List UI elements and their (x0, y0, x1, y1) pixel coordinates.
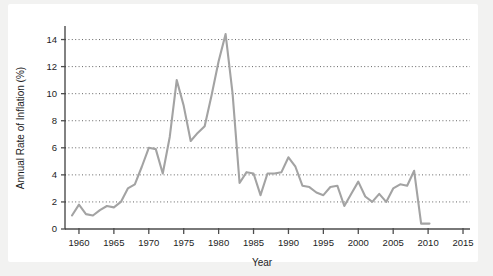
x-tick-label: 1995 (313, 237, 334, 248)
x-tick-label: 2010 (418, 237, 439, 248)
x-tick-label: 1985 (243, 237, 264, 248)
y-tick-label: 6 (52, 142, 57, 153)
inflation-line-chart: 02468101214 1960196519701975198019851990… (0, 0, 493, 276)
y-tick-label: 4 (52, 169, 57, 180)
y-tick-label: 10 (46, 88, 57, 99)
gridlines (65, 40, 470, 202)
x-tick-label: 1990 (278, 237, 299, 248)
y-axis-title: Annual Rate of Inflation (%) (15, 67, 26, 189)
y-axis-ticks: 02468101214 (46, 34, 66, 234)
x-tick-label: 2000 (348, 237, 369, 248)
x-tick-label: 2005 (383, 237, 404, 248)
x-tick-label: 1975 (173, 237, 194, 248)
y-tick-label: 8 (52, 115, 57, 126)
y-tick-label: 2 (52, 196, 57, 207)
x-axis-ticks: 1960196519701975198019851990199520002005… (68, 228, 473, 248)
inflation-data-line (72, 34, 430, 223)
y-tick-label: 14 (46, 34, 57, 45)
y-tick-label: 12 (46, 61, 57, 72)
x-tick-label: 1970 (138, 237, 159, 248)
x-tick-label: 1965 (103, 237, 124, 248)
x-tick-label: 1960 (68, 237, 89, 248)
x-tick-label: 1980 (208, 237, 229, 248)
x-tick-label: 2015 (452, 237, 473, 248)
y-tick-label: 0 (52, 223, 57, 234)
x-axis-title: Year (252, 257, 273, 268)
chart-screenshot: 02468101214 1960196519701975198019851990… (0, 0, 493, 276)
